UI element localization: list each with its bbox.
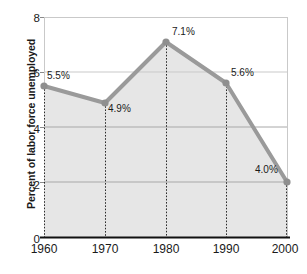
point-label-1970: 4.9%	[108, 104, 131, 114]
data-point-2000[interactable]	[283, 178, 290, 185]
point-label-1980: 7.1%	[172, 27, 195, 37]
x-tick-label: 1990	[203, 243, 249, 255]
data-point-1990[interactable]	[222, 79, 229, 86]
x-axis-tick-labels: 1960 1970 1980 1990 2000	[0, 243, 307, 263]
point-label-1960: 5.5%	[47, 71, 70, 81]
point-label-1990: 5.6%	[231, 68, 254, 78]
data-point-1960[interactable]	[40, 82, 47, 89]
x-tick-label: 1960	[21, 243, 67, 255]
unemployment-line-chart: Percent of labor force unemployed 8 6 4 …	[0, 0, 307, 274]
x-tick-label: 2000	[262, 243, 307, 255]
caption-sliver	[6, 266, 156, 274]
x-tick-label: 1970	[82, 243, 128, 255]
data-point-1980[interactable]	[162, 38, 169, 45]
x-tick-label: 1980	[143, 243, 189, 255]
point-label-2000: 4.0%	[255, 165, 278, 175]
plot-area	[0, 0, 307, 274]
